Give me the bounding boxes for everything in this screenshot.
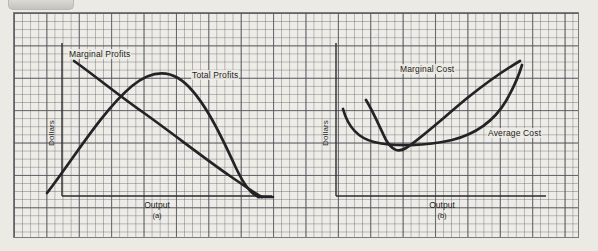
panel-a-caption: (a) xyxy=(152,211,161,220)
marginal-cost-label: Marginal Cost xyxy=(399,64,455,74)
panel-b-x-axis-label: Output (b) xyxy=(412,200,472,221)
panel-a-y-axis-label: Dollars xyxy=(47,120,56,146)
panel-b-caption: (b) xyxy=(437,211,446,220)
panel-b-y-axis-label: Dollars xyxy=(321,120,330,146)
marginal-profits-label: Marginal Profits xyxy=(68,49,131,59)
graph-paper-panel: Dollars Marginal Profits Total Profits O… xyxy=(13,12,579,238)
total-profits-label: Total Profits xyxy=(191,70,239,80)
panel-a-x-axis-text: Output xyxy=(144,200,170,210)
chart-panel-b xyxy=(14,13,580,239)
panel-a-x-axis-label: Output (a) xyxy=(127,200,187,221)
panel-b-x-axis-text: Output xyxy=(429,200,455,210)
cropped-toolbar-artifact xyxy=(8,0,74,10)
figure-root: Dollars Marginal Profits Total Profits O… xyxy=(0,0,598,251)
average-cost-label: Average Cost xyxy=(487,128,542,138)
